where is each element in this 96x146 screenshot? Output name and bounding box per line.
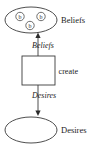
create-process-label: create xyxy=(59,67,79,76)
diagram-svg: b b b Beliefs Beliefs create Desires Des… xyxy=(0,0,96,146)
diagram-canvas: b b b Beliefs Beliefs create Desires Des… xyxy=(0,0,96,146)
edge-label-desires: Desires xyxy=(31,91,56,100)
edge-arrowhead-beliefs xyxy=(35,33,40,38)
edge-label-beliefs: Beliefs xyxy=(32,41,54,50)
desires-ellipse xyxy=(5,117,57,143)
belief-token-label-1: b xyxy=(19,14,22,20)
edge-arrowhead-desires xyxy=(35,111,40,116)
beliefs-node-label: Beliefs xyxy=(61,15,85,25)
desires-node-label: Desires xyxy=(61,125,87,135)
belief-token-label-3: b xyxy=(29,23,32,29)
belief-token-label-2: b xyxy=(40,14,43,20)
create-process-box xyxy=(22,56,55,85)
beliefs-ellipse xyxy=(5,7,57,33)
